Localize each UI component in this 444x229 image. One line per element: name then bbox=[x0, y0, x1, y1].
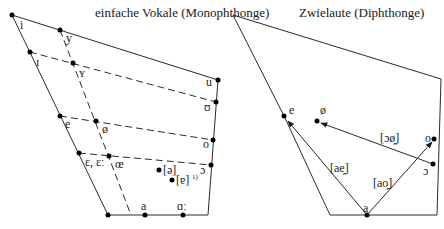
label-e: e bbox=[65, 117, 70, 131]
label-open-o: ɔ bbox=[200, 163, 205, 177]
label-u: u bbox=[206, 75, 212, 89]
dashed-line-close-mid bbox=[60, 116, 213, 140]
diphthong-diagram: Zwielaute (Diphthonge) e ø o ɔ a [ae̯] [… bbox=[233, 5, 441, 218]
vowel-point-oe-close bbox=[94, 119, 99, 124]
label-epsilon: ɛ, ɛː bbox=[85, 155, 104, 169]
label-Y: ʏ bbox=[79, 66, 85, 80]
label-o: o bbox=[203, 137, 209, 151]
vowel-point-oe-open bbox=[107, 154, 112, 159]
label-i: i bbox=[20, 18, 24, 32]
label-U: ʊ bbox=[204, 100, 211, 114]
vowel-point-oe bbox=[315, 119, 320, 124]
label-oe: ø bbox=[320, 103, 326, 117]
label-schwa: [ə] bbox=[163, 163, 176, 177]
arrow-open-o-to-oe bbox=[321, 123, 433, 164]
label-diphthong-ae: [ae̯] bbox=[330, 161, 349, 175]
label-a-long: ɑː bbox=[177, 199, 187, 213]
label-e: e bbox=[289, 103, 294, 117]
vowel-point-turned-a bbox=[170, 178, 175, 183]
label-diphthong-ao: [ao̯] bbox=[373, 176, 392, 190]
dashed-line-near-close bbox=[30, 52, 216, 102]
diphthong-title: Zwielaute (Diphthonge) bbox=[299, 5, 424, 20]
vowel-point-open-o bbox=[431, 162, 436, 167]
vowel-point-o bbox=[432, 137, 437, 142]
vowel-point-i bbox=[10, 13, 15, 18]
vowel-point-y bbox=[58, 28, 63, 33]
label-a: a bbox=[363, 201, 369, 215]
vowel-point-open-o bbox=[209, 163, 214, 168]
label-oe-open: œ bbox=[115, 157, 124, 171]
vowel-point-o bbox=[211, 138, 216, 143]
label-I: ɪ bbox=[36, 55, 39, 69]
monophthong-diagram: einfache Vokale (Monophthonge) i y ɪ ʏ u… bbox=[10, 5, 270, 218]
label-turned-a: [ɐ] bbox=[176, 173, 189, 187]
label-o: o bbox=[425, 131, 431, 145]
label-y: y bbox=[66, 31, 72, 45]
vowel-point-Y bbox=[71, 61, 76, 66]
vowel-point-e bbox=[58, 114, 63, 119]
vowel-point-e bbox=[282, 114, 287, 119]
label-oe-close: ø bbox=[102, 122, 108, 136]
vowel-point-I bbox=[28, 50, 33, 55]
diphthong-trapezoid-outline bbox=[233, 15, 441, 215]
footnote-marker: 1) bbox=[192, 173, 199, 181]
label-open-o: ɔ bbox=[423, 164, 428, 178]
vowel-point-U bbox=[214, 100, 219, 105]
label-a: a bbox=[141, 199, 147, 213]
label-diphthong-oy: [ɔø̯] bbox=[380, 131, 399, 145]
vowel-chart-svg: einfache Vokale (Monophthonge) i y ɪ ʏ u… bbox=[0, 0, 444, 229]
vowel-point-schwa bbox=[157, 168, 162, 173]
vowel-diagrams: einfache Vokale (Monophthonge) i y ɪ ʏ u… bbox=[0, 0, 444, 229]
vowel-point-a bbox=[143, 213, 148, 218]
vowel-point-epsilon bbox=[77, 151, 82, 156]
vowel-point-bottom-left bbox=[106, 213, 111, 218]
vowel-point-a-long bbox=[181, 213, 186, 218]
vowel-point-u bbox=[216, 78, 221, 83]
